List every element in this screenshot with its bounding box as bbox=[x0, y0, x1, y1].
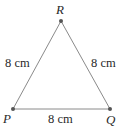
vertex-r-label: R bbox=[55, 2, 64, 17]
side-pr-label: 8 cm bbox=[5, 56, 30, 70]
vertex-p-point bbox=[11, 107, 15, 111]
side-rq-label: 8 cm bbox=[91, 56, 116, 70]
triangle-diagram: R P Q 8 cm 8 cm 8 cm bbox=[0, 0, 126, 128]
side-pq-label: 8 cm bbox=[48, 112, 73, 126]
vertex-p-label: P bbox=[2, 111, 11, 126]
vertex-r-point bbox=[59, 19, 63, 23]
vertex-q-label: Q bbox=[106, 112, 116, 127]
vertex-q-point bbox=[108, 107, 112, 111]
